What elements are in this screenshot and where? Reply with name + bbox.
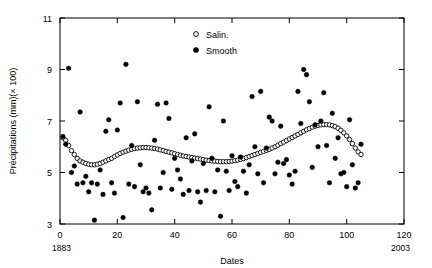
- data-point-smooth: [336, 135, 341, 140]
- data-point-smooth: [155, 102, 160, 107]
- chart-svg: 357911020406080100120DatesPrécipitations…: [0, 0, 432, 268]
- data-point-smooth: [195, 190, 200, 195]
- data-point-smooth: [61, 134, 66, 139]
- data-point-smooth: [273, 171, 278, 176]
- data-point-smooth: [324, 143, 329, 148]
- data-point-smooth: [296, 89, 301, 94]
- data-point-smooth: [353, 186, 358, 191]
- data-point-smooth: [244, 191, 249, 196]
- data-point-smooth: [98, 168, 103, 173]
- y-tick-label: 5: [47, 168, 52, 178]
- data-point-smooth: [138, 162, 143, 167]
- data-point-smooth: [293, 169, 298, 174]
- data-point-smooth: [235, 184, 240, 189]
- data-point-smooth: [313, 123, 318, 128]
- data-point-smooth: [121, 215, 126, 220]
- data-point-smooth: [115, 128, 120, 133]
- data-point-smooth: [344, 184, 349, 189]
- x-tick-label: 100: [339, 230, 354, 240]
- data-point-smooth: [124, 62, 129, 67]
- data-point-smooth: [152, 138, 157, 143]
- data-point-smooth: [187, 188, 192, 193]
- data-point-smooth: [158, 186, 163, 191]
- x-tick-label: 80: [284, 230, 294, 240]
- data-point-smooth: [112, 191, 117, 196]
- chart-series: [61, 62, 364, 222]
- data-point-smooth: [147, 191, 152, 196]
- data-point-smooth: [132, 184, 137, 189]
- x-tick-label: 120: [396, 230, 411, 240]
- x-tick-label: 0: [57, 230, 62, 240]
- data-point-smooth: [261, 181, 266, 186]
- data-point-smooth: [198, 200, 203, 205]
- x-tick-label: 60: [227, 230, 237, 240]
- data-point-salin: [347, 137, 351, 141]
- y-tick-label: 7: [47, 117, 52, 127]
- data-point-smooth: [178, 177, 183, 182]
- data-point-smooth: [316, 144, 321, 149]
- data-point-smooth: [109, 181, 114, 186]
- data-point-smooth: [81, 181, 86, 186]
- data-point-smooth: [321, 90, 326, 95]
- data-point-smooth: [92, 218, 97, 223]
- data-point-smooth: [89, 181, 94, 186]
- data-point-smooth: [106, 117, 111, 122]
- data-point-smooth: [224, 169, 229, 174]
- data-point-smooth: [63, 142, 68, 147]
- data-point-smooth: [310, 165, 315, 170]
- data-point-smooth: [204, 188, 209, 193]
- data-point-smooth: [327, 181, 332, 186]
- data-point-smooth: [270, 119, 275, 124]
- data-point-smooth: [78, 110, 83, 115]
- data-point-smooth: [181, 192, 186, 197]
- legend-marker-smooth: [193, 47, 198, 52]
- x-tick-label: 20: [112, 230, 122, 240]
- data-point-smooth: [207, 105, 212, 110]
- data-point-smooth: [233, 179, 238, 184]
- data-point-smooth: [276, 160, 281, 165]
- data-point-smooth: [307, 99, 312, 104]
- data-point-smooth: [84, 174, 89, 179]
- data-point-smooth: [319, 119, 324, 124]
- start-year-label: 1883: [52, 243, 71, 253]
- legend-marker-salin: [194, 32, 199, 37]
- data-point-salin: [69, 148, 73, 152]
- data-point-smooth: [299, 121, 304, 126]
- data-point-smooth: [127, 182, 132, 187]
- data-point-smooth: [129, 143, 134, 148]
- data-point-smooth: [215, 168, 220, 173]
- data-point-smooth: [333, 156, 338, 161]
- data-point-smooth: [330, 111, 335, 116]
- data-point-smooth: [253, 144, 258, 149]
- data-point-salin: [350, 141, 354, 145]
- data-point-smooth: [290, 182, 295, 187]
- data-point-smooth: [241, 169, 246, 174]
- data-point-smooth: [218, 214, 223, 219]
- data-point-smooth: [359, 142, 364, 147]
- legend-label: Smooth: [206, 46, 237, 56]
- y-tick-label: 3: [47, 220, 52, 230]
- chart-legend: Salin.Smooth: [193, 30, 237, 56]
- data-point-smooth: [258, 89, 263, 94]
- data-point-smooth: [281, 161, 286, 166]
- data-point-smooth: [250, 94, 255, 99]
- data-point-smooth: [227, 188, 232, 193]
- data-point-smooth: [267, 115, 272, 120]
- data-point-smooth: [86, 190, 91, 195]
- data-point-smooth: [350, 162, 355, 167]
- data-point-smooth: [284, 157, 289, 162]
- data-point-smooth: [221, 119, 226, 124]
- data-point-smooth: [104, 129, 109, 134]
- data-point-smooth: [278, 124, 283, 129]
- precipitation-scatter-chart: 357911020406080100120DatesPrécipitations…: [0, 0, 432, 268]
- data-point-smooth: [213, 190, 218, 195]
- data-point-smooth: [264, 146, 269, 151]
- data-point-smooth: [356, 181, 361, 186]
- data-point-smooth: [118, 101, 123, 106]
- data-point-smooth: [144, 186, 149, 191]
- data-point-smooth: [172, 156, 177, 161]
- data-point-smooth: [135, 99, 140, 104]
- data-point-smooth: [238, 155, 243, 160]
- data-point-smooth: [190, 159, 195, 164]
- data-point-smooth: [75, 182, 80, 187]
